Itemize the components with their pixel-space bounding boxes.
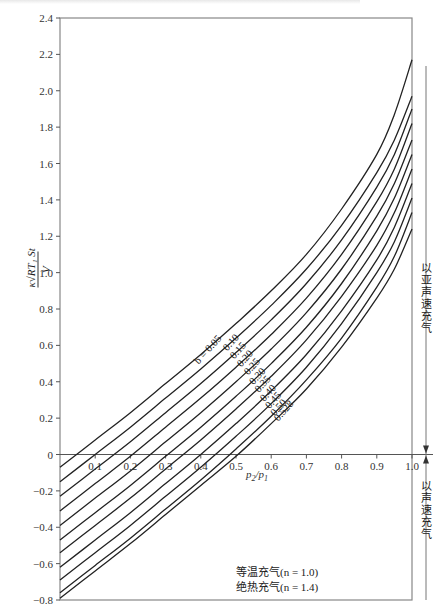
y-tick-label: −0.4 — [33, 521, 53, 533]
chart: 2.42.22.01.81.61.41.21.00.80.60.40.20−0.… — [0, 0, 445, 615]
y-tick-label: 2.4 — [39, 12, 53, 24]
x-tick-label: 0.9 — [370, 460, 384, 472]
y-tick-label: 0 — [48, 449, 54, 461]
y-tick-label: −0.6 — [33, 558, 53, 570]
curve-label: b = 0.05 — [192, 333, 223, 366]
plot-border — [60, 18, 412, 600]
curves — [60, 60, 412, 598]
curve-b-0.20 — [60, 124, 412, 511]
legend-adiabatic: 绝热充气(n = 1.4) — [236, 580, 319, 594]
subsonic-annotation: 以亚声速充气 — [417, 262, 433, 334]
curve-b-0.45 — [60, 198, 412, 580]
y-tick-label: −0.2 — [33, 485, 53, 497]
curve-b-0.15 — [60, 109, 412, 496]
curve-b-0.40 — [60, 184, 412, 568]
x-tick-label: 1.0 — [405, 460, 419, 472]
y-label-denominator: V — [39, 252, 52, 288]
y-tick-label: 1.2 — [39, 230, 53, 242]
curve-b-0.50 — [60, 213, 412, 593]
y-tick-label: 1.4 — [39, 194, 53, 206]
x-tick-label: 0.6 — [264, 460, 278, 472]
y-label-numerator: κ√RT₁ St — [25, 252, 39, 288]
plot-frame — [60, 18, 433, 600]
curve-b-0.05 — [60, 60, 412, 467]
y-tick-label: 1.6 — [39, 158, 53, 170]
x-tick-label: 0.8 — [335, 460, 349, 472]
x-tick-label: 0.4 — [194, 460, 208, 472]
x-axis: 0.10.20.30.40.50.60.70.80.91.0 — [88, 455, 419, 472]
arrow-up-icon — [423, 456, 429, 464]
y-tick-label: 2.2 — [39, 48, 53, 60]
y-tick-label: 0.4 — [39, 376, 53, 388]
sonic-annotation: 以声速充气 — [417, 480, 433, 540]
x-tick-label: 0.2 — [124, 460, 138, 472]
x-tick-label: 0.5 — [229, 460, 243, 472]
y-tick-label: 0.2 — [39, 412, 53, 424]
y-axis-label: κ√RT₁ St V — [25, 252, 52, 288]
curve-b-0.528 — [60, 229, 412, 598]
y-tick-label: 0.8 — [39, 303, 53, 315]
legend-isothermal: 等温充气(n = 1.0) — [236, 565, 319, 579]
y-tick-label: 0.6 — [39, 339, 53, 351]
y-tick-label: 2.0 — [39, 85, 53, 97]
y-tick-label: 1.8 — [39, 121, 53, 133]
x-tick-label: 0.7 — [300, 460, 314, 472]
arrow-down-icon — [423, 446, 429, 454]
y-tick-label: −0.8 — [33, 594, 53, 606]
y-axis: 2.42.22.01.81.61.41.21.00.80.60.40.20−0.… — [33, 12, 60, 606]
legend: 等温充气(n = 1.0) 绝热充气(n = 1.4) — [236, 565, 319, 594]
